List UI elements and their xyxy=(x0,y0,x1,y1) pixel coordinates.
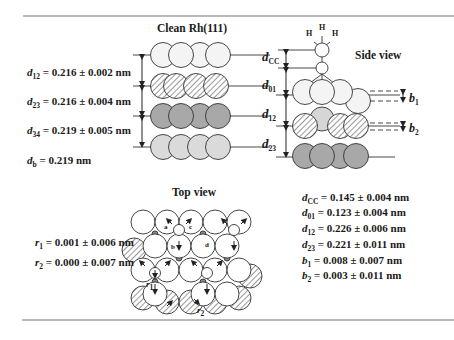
lateral-param-r1: r1 = 0.001 ± 0.006 nm xyxy=(35,237,134,251)
top-view-r2-label: r2 xyxy=(197,306,204,318)
adsorbate-site-4 xyxy=(202,268,213,279)
buckle-label-b1: b1 xyxy=(409,92,419,107)
buckle-label-b2: b2 xyxy=(409,122,419,137)
adsorbate-site-1 xyxy=(174,225,185,236)
clean-param-db: db = 0.219 nm xyxy=(27,155,91,169)
adsorbate-param-d01: d01 = 0.123 ± 0.004 nm xyxy=(302,207,406,221)
side-view-title: Side view xyxy=(355,50,401,62)
site-label-d: d xyxy=(205,242,209,249)
side-label-d12: d12 xyxy=(262,107,276,123)
carbon-atom-bottom xyxy=(316,62,328,74)
clean-param-d12: d12 = 0.216 ± 0.002 nm xyxy=(27,67,131,81)
adsorbate-param-b1: b1 = 0.008 ± 0.007 nm xyxy=(302,255,402,269)
clean-layer-4 xyxy=(151,135,231,160)
top-view-title: Top view xyxy=(172,187,216,199)
adsorbate-param-b2: b2 = 0.003 ± 0.011 nm xyxy=(302,270,401,284)
clean-surface-title: Clean Rh(111) xyxy=(157,23,227,35)
clean-layer-1 xyxy=(151,43,231,68)
adsorbate-param-d23: d23 = 0.221 ± 0.011 nm xyxy=(302,239,405,253)
side-label-dcc: dCC xyxy=(262,50,279,66)
carbon-atom-top xyxy=(315,43,329,57)
clean-layer-3 xyxy=(151,104,231,129)
top-view-r1-label: r1 xyxy=(146,280,153,292)
adsorbate-param-dcc: dCC = 0.145 ± 0.004 nm xyxy=(302,192,409,206)
hydrogen-label: H xyxy=(332,30,338,38)
site-label-b: b xyxy=(171,244,175,251)
side-label-d23: d23 xyxy=(262,137,276,153)
hydrogen-label: H xyxy=(319,24,325,32)
adsorbate-site-2 xyxy=(229,225,240,236)
side-label-d01: d01 xyxy=(262,78,276,94)
site-label-c: c xyxy=(189,224,192,231)
adsorbate-param-d12: d12 = 0.226 ± 0.006 nm xyxy=(302,223,406,237)
hydrogen-label: H xyxy=(306,30,312,38)
lateral-param-r2: r2 = 0.000 ± 0.007 nm xyxy=(35,257,134,271)
clean-layer-2 xyxy=(151,74,229,99)
clean-param-d34: d34 = 0.219 ± 0.005 nm xyxy=(27,125,131,139)
clean-param-d23: d23 = 0.216 ± 0.004 nm xyxy=(27,96,131,110)
clean-surface-stack xyxy=(133,43,270,160)
site-label-a: a xyxy=(164,224,168,231)
